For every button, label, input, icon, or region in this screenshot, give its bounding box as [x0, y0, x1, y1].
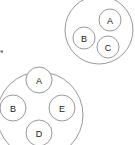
group-lower-left-cluster[interactable]: A B E D — [0, 67, 83, 145]
node-label-b: B — [81, 34, 87, 44]
stray-mark-icon — [1, 51, 4, 53]
node-lower-left-e[interactable]: E — [49, 95, 75, 121]
nested-circle-diagram: A B C A B E — [0, 0, 135, 145]
node-lower-left-a[interactable]: A — [26, 67, 52, 93]
node-label-e: E — [59, 104, 65, 114]
node-upper-right-a[interactable]: A — [99, 9, 121, 31]
node-label-b: B — [10, 104, 16, 114]
diagram-canvas: A B C A B E — [0, 0, 135, 145]
node-label-a: A — [36, 76, 42, 86]
node-lower-left-d[interactable]: D — [26, 120, 52, 145]
node-upper-right-b[interactable]: B — [73, 27, 95, 49]
node-upper-right-c[interactable]: C — [97, 36, 119, 58]
node-label-c: C — [105, 43, 112, 53]
group-upper-right-cluster[interactable]: A B C — [65, 0, 133, 64]
node-label-a: A — [107, 16, 113, 26]
node-label-d: D — [36, 129, 43, 139]
node-lower-left-b[interactable]: B — [0, 95, 26, 121]
